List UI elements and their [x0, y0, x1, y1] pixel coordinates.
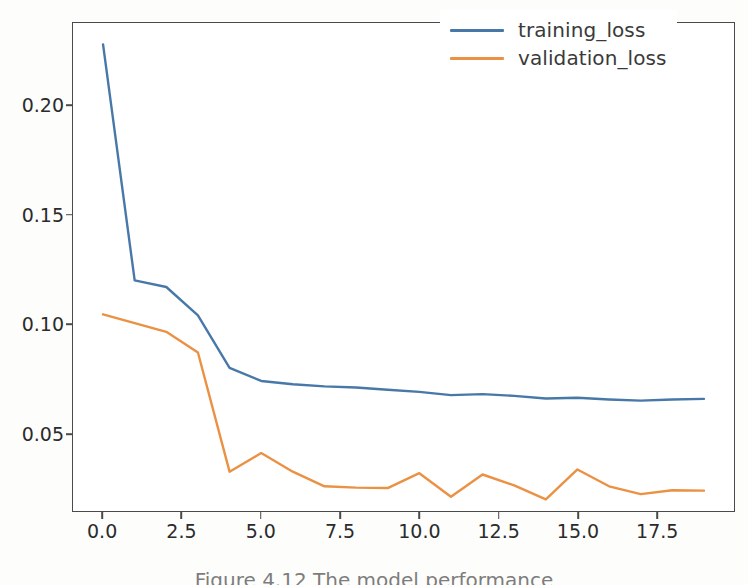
- x-tick-label: 7.5: [325, 520, 355, 542]
- legend-label-validation-loss: validation_loss: [518, 46, 667, 70]
- x-tick-label: 2.5: [166, 520, 196, 542]
- x-tick-mark: [339, 512, 341, 519]
- x-tick-mark: [498, 512, 500, 519]
- series-group: [103, 44, 704, 499]
- figure-caption: Figure 4.12 The model performance: [0, 568, 748, 585]
- legend-item-training: training_loss: [450, 16, 667, 44]
- legend-swatch-training-loss: [450, 29, 504, 32]
- x-tick-mark: [260, 512, 262, 519]
- x-tick-label: 12.5: [478, 520, 520, 542]
- x-tick-mark: [181, 512, 183, 519]
- y-tick-label: 0.05: [0, 423, 64, 445]
- legend-item-validation: validation_loss: [450, 44, 667, 72]
- y-tick-label: 0.20: [0, 94, 64, 116]
- x-tick-label: 10.0: [398, 520, 440, 542]
- legend-label-training-loss: training_loss: [518, 18, 645, 42]
- x-tick-label: 0.0: [87, 520, 117, 542]
- x-tick-mark: [419, 512, 421, 519]
- x-tick-label: 17.5: [636, 520, 678, 542]
- x-tick-label: 5.0: [246, 520, 276, 542]
- x-tick-mark: [577, 512, 579, 519]
- chart-legend: training_loss validation_loss: [440, 10, 677, 80]
- plot-axes: [72, 22, 735, 512]
- figure-canvas: 0.050.100.150.20 0.02.55.07.510.012.515.…: [0, 0, 748, 585]
- x-tick-mark: [656, 512, 658, 519]
- x-tick-mark: [101, 512, 103, 519]
- line-chart-svg: [73, 23, 734, 511]
- y-tick-label: 0.15: [0, 204, 64, 226]
- series-line-training-loss: [103, 44, 704, 400]
- series-line-validation-loss: [103, 314, 704, 499]
- legend-swatch-validation-loss: [450, 57, 504, 60]
- y-tick-label: 0.10: [0, 313, 64, 335]
- x-tick-label: 15.0: [557, 520, 599, 542]
